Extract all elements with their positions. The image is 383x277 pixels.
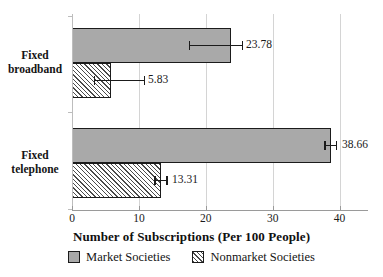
gridline-40 (340, 14, 341, 210)
legend-swatch-nonmarket-icon (192, 251, 204, 263)
x-axis-line (72, 210, 368, 211)
errorbar-cap-high-telephone-nonmarket (166, 176, 167, 185)
x-tick-label-40: 40 (320, 213, 360, 225)
category-label-broadband: Fixed broadband (2, 49, 68, 76)
y-axis-tick-mid (68, 112, 73, 113)
x-axis-tick-20 (206, 206, 207, 211)
legend: Market Societies Nonmarket Societies (0, 251, 383, 264)
errorbar-cap-low-telephone-nonmarket (154, 176, 155, 185)
value-label-broadband-nonmarket: 5.83 (148, 74, 168, 86)
x-tick-label-30: 30 (253, 213, 293, 225)
bar-telephone-market (72, 128, 331, 163)
errorbar-cap-high-broadband-nonmarket (144, 76, 145, 85)
category-label-broadband-line1: Fixed (21, 49, 48, 61)
errorbar-cap-low-broadband-market (189, 41, 190, 50)
legend-label-market: Market Societies (86, 251, 170, 264)
x-axis-title: Number of Subscriptions (Per 100 People) (0, 229, 383, 245)
legend-item-market: Market Societies (68, 251, 170, 264)
x-axis-tick-40 (340, 206, 341, 211)
bar-telephone-nonmarket (72, 163, 161, 198)
bar-chart: 23.78 5.83 38.66 13.31 Fixed broadband F… (0, 0, 383, 277)
x-axis-tick-0 (72, 206, 73, 211)
value-label-telephone-market: 38.66 (342, 139, 368, 151)
category-label-broadband-line2: broadband (8, 63, 62, 75)
legend-item-nonmarket: Nonmarket Societies (192, 251, 315, 264)
errorbar-cap-high-broadband-market (242, 41, 243, 50)
errorbar-broadband-nonmarket (94, 80, 145, 81)
value-label-telephone-nonmarket: 13.31 (172, 174, 198, 186)
legend-label-nonmarket: Nonmarket Societies (210, 251, 315, 264)
plot-area (72, 14, 340, 210)
category-label-telephone: Fixed telephone (2, 149, 68, 176)
errorbar-cap-low-telephone-market (324, 141, 325, 150)
errorbar-cap-low-broadband-nonmarket (94, 76, 95, 85)
gridline-30 (273, 14, 274, 210)
x-axis-tick-10 (139, 206, 140, 211)
x-tick-label-10: 10 (119, 213, 159, 225)
y-axis-tick-top (68, 16, 73, 17)
x-tick-label-20: 20 (186, 213, 226, 225)
x-axis-tick-30 (273, 206, 274, 211)
category-label-telephone-line2: telephone (11, 163, 58, 175)
errorbar-broadband-market (189, 45, 243, 46)
x-tick-label-0: 0 (52, 213, 92, 225)
legend-swatch-market-icon (68, 251, 80, 263)
category-label-telephone-line1: Fixed (21, 149, 48, 161)
value-label-broadband-market: 23.78 (246, 39, 272, 51)
errorbar-cap-high-telephone-market (336, 141, 337, 150)
